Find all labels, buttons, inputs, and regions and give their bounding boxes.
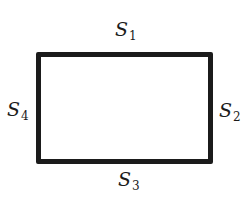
- side-label-s2: S2: [219, 101, 241, 123]
- rectangle-shape: [36, 52, 213, 164]
- side-label-s3-subscript: 3: [132, 179, 140, 193]
- side-label-s1: S1: [115, 20, 137, 42]
- side-label-s4: S4: [7, 100, 29, 122]
- side-label-s2-subscript: 2: [233, 110, 241, 124]
- side-label-s3: S3: [118, 170, 140, 192]
- figure-canvas: S1 S2 S3 S4: [0, 0, 252, 200]
- side-label-s3-base: S: [118, 168, 131, 190]
- side-label-s4-base: S: [7, 98, 20, 120]
- side-label-s4-subscript: 4: [21, 109, 29, 123]
- side-label-s1-subscript: 1: [129, 29, 137, 43]
- side-label-s2-base: S: [219, 99, 232, 121]
- side-label-s1-base: S: [115, 18, 128, 40]
